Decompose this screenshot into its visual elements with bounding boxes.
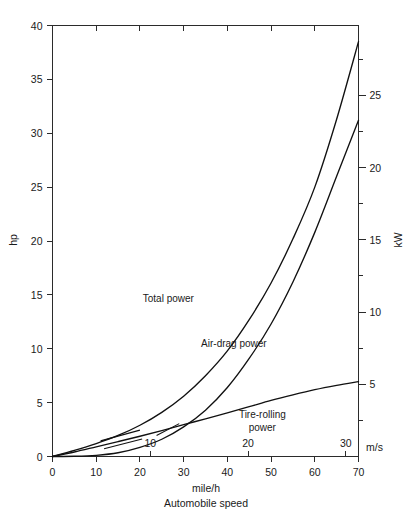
power-vs-speed-chart: 010203040506070 0510152025303540 5101520… [0, 0, 417, 521]
y-tick-label: 35 [31, 73, 43, 85]
x-tick-label-ms: 10 [144, 437, 156, 449]
plot-frame [53, 26, 359, 457]
y-axis-title-kw: kW [392, 232, 404, 247]
x-tick-label: 60 [309, 466, 321, 478]
x-tick-label: 0 [50, 466, 56, 478]
curve-label-2-line2: power [249, 422, 277, 433]
leader-line-0 [101, 430, 140, 441]
y-tick-label-kw: 25 [370, 89, 382, 101]
x-tick-label: 70 [353, 466, 365, 478]
y-axis-ticks-hp [47, 26, 53, 457]
y-axis-tick-labels-hp: 0510152025303540 [31, 20, 43, 463]
x-tick-label: 20 [134, 466, 146, 478]
x-axis-ticks-ms [150, 451, 346, 457]
x-axis-top-ticks [96, 26, 315, 31]
plot-border [53, 26, 359, 457]
chart-svg-canvas: 010203040506070 0510152025303540 5101520… [0, 0, 417, 521]
curve-label-0: Total power [143, 293, 195, 304]
y-tick-label: 10 [31, 343, 43, 355]
x-axis-tick-labels-ms: 102030 [144, 437, 351, 449]
y-tick-label-kw: 20 [370, 162, 382, 174]
y-tick-label: 15 [31, 289, 43, 301]
y-tick-label: 20 [31, 235, 43, 247]
x-tick-label: 40 [222, 466, 234, 478]
curve-label-1: Air-drag power [201, 338, 267, 349]
x-axis-secondary-unit-label: m/s [366, 441, 383, 453]
x-axis-tick-labels: 010203040506070 [50, 466, 365, 478]
curve-annotations: Total powerAir-drag powerTire-rollingpow… [143, 293, 286, 432]
y-tick-label-kw: 10 [370, 306, 382, 318]
x-tick-label-ms: 20 [242, 437, 254, 449]
leader-line-2 [157, 424, 180, 436]
y-tick-label: 30 [31, 127, 43, 139]
x-tick-label: 10 [90, 466, 102, 478]
data-curves [53, 42, 359, 457]
curve-air-drag-power [53, 120, 359, 456]
y-axis-tick-labels-kw: 510152025 [370, 89, 382, 390]
y-axis-ticks-kw [359, 59, 366, 420]
curve-tire-rolling-power [53, 382, 359, 457]
x-axis-ticks [53, 457, 359, 462]
x-tick-label: 50 [265, 466, 277, 478]
y-tick-label: 40 [31, 20, 43, 32]
y-tick-label: 5 [37, 397, 43, 409]
x-axis-unit-label: mile/h [192, 482, 220, 494]
y-tick-label: 25 [31, 181, 43, 193]
curve-label-2: Tire-rolling [239, 409, 286, 420]
y-tick-label-kw: 15 [370, 234, 382, 246]
curve-total-power [53, 42, 359, 457]
x-tick-label: 30 [178, 466, 190, 478]
y-tick-label: 0 [37, 451, 43, 463]
x-axis-title: Automobile speed [164, 497, 248, 509]
x-tick-label-ms: 30 [340, 437, 352, 449]
y-axis-title-hp: hp [7, 234, 19, 246]
y-tick-label-kw: 5 [370, 378, 376, 390]
